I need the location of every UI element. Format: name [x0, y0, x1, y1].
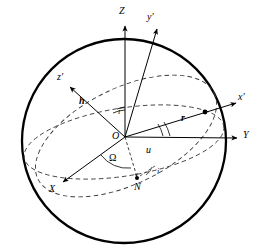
- point-label-N: N: [134, 182, 141, 192]
- satellite-point: [203, 110, 208, 115]
- angle-label-u: u: [146, 145, 151, 155]
- node-direction-line: [125, 137, 137, 177]
- angle-arc-i-node: [146, 167, 152, 175]
- axis-label-y-prime: y′: [147, 12, 154, 22]
- celestial-sphere-outline: [22, 39, 226, 243]
- axis-label-Z: Z: [119, 6, 125, 16]
- axis-label-x-prime: x′: [238, 92, 245, 102]
- angle-label-i-node: i: [157, 168, 159, 176]
- node-point-N: [135, 176, 139, 180]
- orbital-diagram-figure: Z y′ x′ Y X z′ O h r i u Ω i N: [0, 0, 261, 251]
- vector-label-h: h: [79, 96, 85, 106]
- origin-label-O: O: [112, 131, 119, 141]
- axis-label-Y: Y: [243, 130, 249, 140]
- vector-label-r: r: [181, 113, 185, 123]
- angle-label-i-top: i: [118, 108, 120, 116]
- axis-label-z-prime: z′: [57, 72, 63, 82]
- axis-label-X: X: [49, 184, 55, 194]
- angle-label-Omega: Ω: [109, 153, 116, 163]
- figure-canvas: [0, 0, 261, 251]
